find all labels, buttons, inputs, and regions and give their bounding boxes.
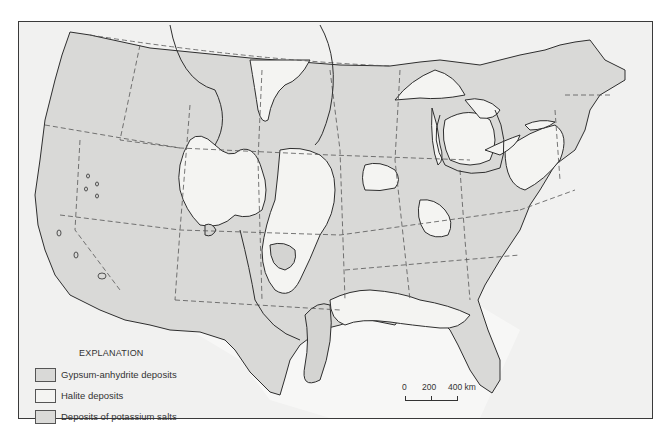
halite-michigan: [443, 113, 495, 166]
scale-tick-200: 200: [422, 382, 436, 392]
scale-tick-0: 0: [402, 382, 407, 392]
legend-label: Deposits of potassium salts: [61, 411, 177, 422]
scale-bar-mid-tick: [431, 396, 432, 401]
legend-label: Halite deposits: [61, 390, 123, 401]
legend-item-gypsum: Gypsum-anhydrite deposits: [35, 364, 177, 385]
halite-swatch: [35, 389, 56, 403]
legend-item-potassium: Deposits of potassium salts: [35, 406, 177, 427]
legend-title: EXPLANATION: [79, 348, 177, 358]
legend-label: Gypsum-anhydrite deposits: [61, 369, 177, 380]
legend-item-halite: Halite deposits: [35, 385, 177, 406]
gypsum-swatch: [35, 368, 56, 382]
potassium-swatch: [35, 410, 56, 424]
scale-tick-400: 400 km: [448, 382, 476, 392]
map-legend: EXPLANATION Gypsum-anhydrite deposits Ha…: [35, 348, 177, 427]
scale-bar: 0 200 400 km: [402, 382, 482, 406]
